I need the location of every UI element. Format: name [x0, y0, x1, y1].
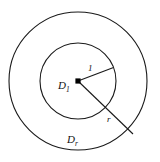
- outer-disk-label-subscript: r: [75, 139, 78, 148]
- inner-disk-label-subscript: 1: [66, 85, 70, 94]
- figure-container: D1 Dr 1 r: [0, 0, 160, 162]
- outer-disk-label-main: D: [66, 133, 75, 145]
- inner-disk-label-main: D: [57, 79, 66, 91]
- center-point-marker: [75, 78, 80, 83]
- outer-radius-label: r: [107, 114, 111, 124]
- concentric-disks-figure: D1 Dr 1 r: [0, 0, 160, 162]
- inner-radius-label: 1: [88, 63, 93, 73]
